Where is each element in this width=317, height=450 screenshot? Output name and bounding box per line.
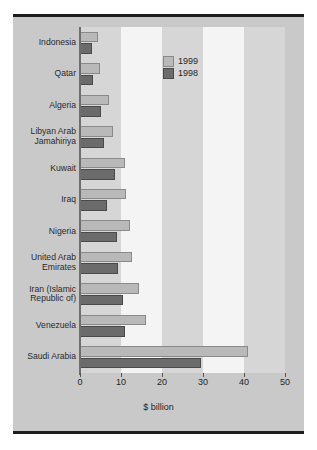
category-label: Saudi Arabia xyxy=(0,352,76,362)
bar-1998 xyxy=(80,200,107,211)
bar-1999 xyxy=(80,95,109,106)
axis-tick-mark xyxy=(203,373,204,377)
category-label: Algeria xyxy=(0,101,76,111)
bar-1998 xyxy=(80,263,118,274)
bar-1998 xyxy=(80,106,101,117)
axis-tick-label: 40 xyxy=(239,377,249,387)
bar-1999 xyxy=(80,252,132,263)
axis-tick-mark xyxy=(162,373,163,377)
bar-1999 xyxy=(80,315,146,326)
bar-1999 xyxy=(80,63,100,74)
legend-label-1999: 1999 xyxy=(178,56,198,66)
legend-swatch-1998 xyxy=(163,68,174,79)
bar-1998 xyxy=(80,326,125,337)
chart-panel: IndonesiaQatarAlgeriaLibyan Arab Jamahir… xyxy=(13,17,304,431)
bar-group xyxy=(80,279,285,310)
bar-1999 xyxy=(80,283,139,294)
bar-group xyxy=(80,310,285,341)
category-label: Venezuela xyxy=(0,321,76,331)
bar-1998 xyxy=(80,295,123,306)
legend-item-1999: 1999 xyxy=(163,55,198,67)
bar-group xyxy=(80,90,285,121)
bar-1998 xyxy=(80,138,104,149)
bar-1999 xyxy=(80,346,248,357)
axis-tick-label: 50 xyxy=(280,377,290,387)
bottom-rule xyxy=(13,431,304,434)
bar-group xyxy=(80,153,285,184)
axis-tick-mark xyxy=(244,373,245,377)
category-label: Nigeria xyxy=(0,227,76,237)
category-label: United Arab Emirates xyxy=(0,253,76,272)
axis-tick-label: 0 xyxy=(77,377,82,387)
axis-tick-mark xyxy=(121,373,122,377)
legend-item-1998: 1998 xyxy=(163,67,198,79)
category-axis-line xyxy=(79,27,81,375)
bar-1999 xyxy=(80,189,126,200)
chart-figure: IndonesiaQatarAlgeriaLibyan Arab Jamahir… xyxy=(0,0,317,450)
bar-group xyxy=(80,216,285,247)
bar-1998 xyxy=(80,232,117,243)
bar-group xyxy=(80,247,285,278)
chart-legend: 1999 1998 xyxy=(163,55,198,79)
bar-1999 xyxy=(80,158,125,169)
axis-tick-label: 20 xyxy=(157,377,167,387)
value-axis: 01020304050 xyxy=(80,373,285,393)
bar-1998 xyxy=(80,75,93,86)
legend-swatch-1999 xyxy=(163,56,174,67)
bar-1999 xyxy=(80,126,113,137)
bar-1999 xyxy=(80,32,98,43)
category-label: Libyan Arab Jamahiriya xyxy=(0,127,76,146)
bar-1998 xyxy=(80,358,201,369)
x-axis-title: $ billion xyxy=(13,402,304,412)
legend-label-1998: 1998 xyxy=(178,68,198,78)
category-label: Kuwait xyxy=(0,164,76,174)
axis-tick-label: 10 xyxy=(116,377,126,387)
bar-group xyxy=(80,27,285,58)
category-labels: IndonesiaQatarAlgeriaLibyan Arab Jamahir… xyxy=(0,27,76,373)
bar-1998 xyxy=(80,169,115,180)
category-label: Qatar xyxy=(0,69,76,79)
bar-group xyxy=(80,121,285,152)
bar-group xyxy=(80,342,285,373)
bar-group xyxy=(80,184,285,215)
category-label: Iran (Islamic Republic of) xyxy=(0,285,76,304)
bar-1998 xyxy=(80,43,92,54)
axis-tick-mark xyxy=(80,373,81,377)
category-label: Indonesia xyxy=(0,38,76,48)
category-label: Iraq xyxy=(0,195,76,205)
axis-tick-mark xyxy=(285,373,286,377)
bar-1999 xyxy=(80,220,130,231)
axis-tick-label: 30 xyxy=(198,377,208,387)
